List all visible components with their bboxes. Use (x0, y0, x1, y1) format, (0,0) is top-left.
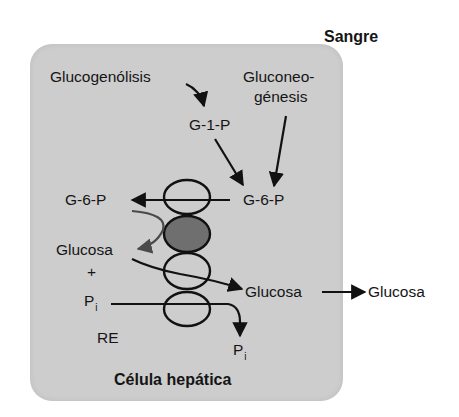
arrow-pi-out-of-er (111, 304, 240, 336)
label-plus: + (87, 263, 96, 281)
transporter-pi (164, 292, 210, 326)
pi-cytosol-subscript: i (244, 351, 246, 362)
label-pi-er: Pi (84, 292, 98, 312)
label-gluconeogenesis-1: Gluconeo- (243, 68, 315, 86)
pi-cytosol-symbol: P (233, 341, 243, 358)
label-glycogenolysis: Glucogenólisis (50, 68, 151, 86)
label-glucose-blood: Glucosa (368, 283, 425, 301)
transporter-g6p (164, 180, 210, 214)
arrow-gluconeogenesis-to-g6p (274, 116, 286, 186)
label-g1p: G-1-P (189, 116, 230, 134)
label-g6p-er: G-6-P (65, 191, 106, 209)
pi-er-symbol: P (84, 292, 94, 309)
label-glucose-er: Glucosa (56, 241, 113, 259)
label-blood: Sangre (324, 28, 378, 46)
glucose-metabolism-diagram: Sangre Glucogenólisis Gluconeo- génesis … (0, 0, 459, 417)
arrow-glycogenolysis-to-g1p (186, 84, 204, 106)
label-gluconeogenesis-2: génesis (254, 88, 307, 106)
label-pi-cytosol: Pi (233, 341, 247, 361)
label-liver-cell: Célula hepática (114, 371, 231, 389)
label-g6p-cytosol: G-6-P (243, 191, 284, 209)
arrow-g6p-to-glucose-er (132, 211, 164, 249)
enzyme-glucose-6-phosphatase (164, 216, 210, 252)
label-glucose-cytosol: Glucosa (245, 283, 302, 301)
arrow-glucose-out-of-er (132, 259, 242, 289)
arrow-g1p-to-g6p (215, 139, 243, 185)
label-er: RE (97, 329, 119, 347)
pi-er-subscript: i (95, 302, 97, 313)
